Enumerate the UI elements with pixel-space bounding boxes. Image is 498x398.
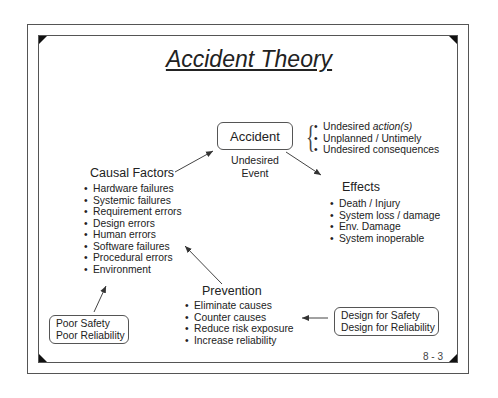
event-line-2: Event <box>225 167 285 180</box>
causal-factors-list: •Hardware failures •Systemic failures •R… <box>84 183 182 275</box>
list-item: •Eliminate causes <box>185 300 294 312</box>
effects-list: •Death / Injury •System loss / damage •E… <box>330 198 440 244</box>
effects-heading: Effects <box>342 180 380 194</box>
list-item: •Env. Damage <box>330 221 440 233</box>
list-item: •Systemic failures <box>84 195 182 207</box>
list-item: •Human errors <box>84 229 182 241</box>
list-item: •Design errors <box>84 218 182 230</box>
list-item: •Increase reliability <box>185 335 294 347</box>
list-item: •Reduce risk exposure <box>185 323 294 335</box>
arrow-prevention-to-causal <box>185 246 222 284</box>
accident-label: Accident <box>230 129 280 144</box>
list-item: •Undesired consequences <box>314 144 439 156</box>
design-for-safety-box: Design for Safety Design for Reliability <box>334 307 439 336</box>
arrow-poor-to-causal <box>94 286 106 312</box>
page-number: 8 - 3 <box>423 351 443 362</box>
list-item: •System inoperable <box>330 233 440 245</box>
prevention-list: •Eliminate causes •Counter causes •Reduc… <box>185 300 294 346</box>
accident-descriptors-list: •Undesired action(s) •Unplanned / Untime… <box>314 121 439 156</box>
list-item: •Undesired action(s) <box>314 121 439 133</box>
list-item: •Hardware failures <box>84 183 182 195</box>
list-item: •Counter causes <box>185 312 294 324</box>
poor-safety-label: Poor Safety <box>56 318 128 330</box>
causal-factors-heading: Causal Factors <box>90 166 174 180</box>
poor-reliability-label: Poor Reliability <box>56 330 128 342</box>
list-item: •Requirement errors <box>84 206 182 218</box>
design-reliability-label: Design for Reliability <box>341 322 438 334</box>
list-item: •System loss / damage <box>330 210 440 222</box>
list-item: •Unplanned / Untimely <box>314 133 439 145</box>
arrow-causal-to-accident <box>175 151 213 172</box>
poor-safety-box: Poor Safety Poor Reliability <box>49 315 129 344</box>
list-item: •Procedural errors <box>84 252 182 264</box>
prevention-heading: Prevention <box>202 284 262 298</box>
list-item: •Death / Injury <box>330 198 440 210</box>
undesired-event-label: Undesired Event <box>225 154 285 180</box>
design-safety-label: Design for Safety <box>341 310 438 322</box>
list-item: •Software failures <box>84 241 182 253</box>
list-item: •Environment <box>84 264 182 276</box>
accident-box: Accident <box>217 122 293 150</box>
event-line-1: Undesired <box>225 154 285 167</box>
